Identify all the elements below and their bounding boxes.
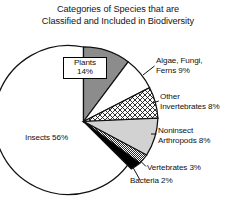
pie-label-algae-fungi-ferns: Algae, Fungi, Ferns 9% [156, 56, 202, 75]
pie-label-vertebrates-text: Vertebrates 3% [147, 163, 201, 172]
pie-label-noninsect-line-2: Arthropods 8% [158, 136, 210, 146]
pie-label-vertebrates: Vertebrates 3% [147, 163, 201, 173]
pie-label-bacteria: Bacteria 2% [130, 176, 173, 186]
pie-label-other-invertebrates-line-1: Other [160, 92, 180, 101]
pie-label-plants-value: 14% [67, 67, 103, 76]
leader-line-vertebrates [140, 161, 146, 167]
pie-label-noninsect-line-1: Noninsect [158, 126, 193, 135]
pie-label-algae-line-1: Algae, Fungi, [156, 56, 202, 65]
pie-label-insects-text: Insects 56% [25, 133, 68, 142]
pie-label-noninsect-arthropods: Noninsect Arthropods 8% [158, 126, 210, 145]
pie-label-other-invertebrates-line-2: Invertebrates 8% [160, 102, 220, 112]
pie-label-plants: Plants 14% [63, 57, 107, 79]
pie-label-plants-name: Plants [74, 58, 96, 67]
pie-label-insects: Insects 56% [25, 133, 68, 143]
leader-line-algae [143, 66, 155, 75]
pie-label-algae-line-2: Ferns 9% [156, 66, 202, 76]
pie-label-bacteria-text: Bacteria 2% [130, 176, 173, 185]
pie-label-other-invertebrates: Other Invertebrates 8% [160, 92, 220, 111]
pie-chart-figure: Categories of Species that are Classifie… [0, 0, 236, 209]
